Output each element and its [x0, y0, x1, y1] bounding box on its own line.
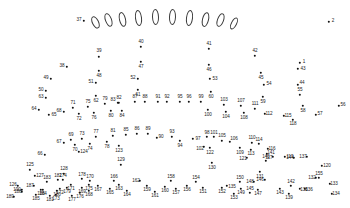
dot-183	[46, 181, 48, 183]
dot-label-155: 155	[315, 172, 322, 177]
dot-label-151: 151	[199, 190, 206, 195]
dot-label-148: 148	[246, 180, 253, 185]
dot-label-100: 100	[204, 113, 211, 118]
dot-label-46: 46	[207, 68, 212, 73]
dot-label-128: 128	[60, 167, 67, 172]
dot-label-76: 76	[92, 116, 97, 121]
dot-145	[249, 192, 251, 194]
dot-105	[221, 140, 223, 142]
dot-label-93: 93	[170, 130, 175, 135]
dot-label-106: 106	[230, 137, 237, 142]
dot-label-73: 73	[80, 132, 85, 137]
dot-63	[45, 97, 47, 99]
dot-75	[87, 106, 89, 108]
dot-49	[50, 78, 52, 80]
oval-3-shape	[117, 11, 127, 27]
dot-label-122: 122	[206, 151, 213, 156]
dot-label-67: 67	[57, 140, 62, 145]
dot-label-130: 130	[208, 166, 215, 171]
dot-label-66: 66	[38, 152, 43, 157]
oval-5-shape	[151, 9, 159, 25]
dot-65	[48, 114, 50, 116]
dot-label-69: 69	[69, 133, 74, 138]
dot-label-152: 152	[218, 190, 225, 195]
dot-label-2: 2	[332, 18, 334, 23]
dot-label-55: 55	[298, 88, 303, 93]
dot-label-141: 141	[267, 151, 274, 156]
dot-label-65: 65	[52, 113, 57, 118]
dot-label-143: 143	[276, 191, 283, 196]
dot-label-142: 142	[287, 180, 294, 185]
dot-label-41: 41	[207, 42, 212, 47]
dot-label-81: 81	[111, 129, 116, 134]
dot-label-139: 139	[285, 196, 292, 201]
dot-label-167: 167	[94, 188, 101, 193]
dot-37	[83, 20, 85, 22]
dot-label-68: 68	[57, 109, 62, 114]
dot-label-49: 49	[44, 76, 49, 81]
dot-label-162: 162	[132, 179, 139, 184]
dot-label-88: 88	[143, 95, 148, 100]
dot-42	[254, 55, 256, 57]
dot-label-38: 38	[60, 64, 65, 69]
dot-label-52: 52	[131, 76, 136, 81]
dot-label-114: 114	[255, 138, 262, 143]
oval-10-shape	[228, 16, 239, 30]
dot-39	[98, 56, 100, 58]
dot-52	[137, 78, 139, 80]
dot-label-190: 190	[13, 188, 20, 193]
dot-label-70: 70	[73, 148, 78, 153]
dot-label-110: 110	[248, 136, 255, 141]
dot-label-64: 64	[32, 107, 37, 112]
dot-182	[57, 179, 59, 181]
dot-96	[188, 101, 190, 103]
dot-label-79: 79	[103, 97, 108, 102]
dot-label-157: 157	[172, 191, 179, 196]
dot-125	[29, 169, 31, 171]
oval-9-shape	[215, 12, 226, 27]
oval-8-shape	[200, 11, 210, 27]
dot-label-45: 45	[259, 76, 264, 81]
dot-label-147: 147	[254, 192, 261, 197]
dot-38	[66, 66, 68, 68]
dot-92	[166, 101, 168, 103]
dot-53	[209, 78, 211, 80]
dot-label-102: 102	[196, 147, 203, 152]
dot-label-145: 145	[246, 187, 253, 192]
dot-label-137: 137	[299, 155, 306, 160]
dot-66	[44, 154, 46, 156]
dot-label-86: 86	[135, 127, 140, 132]
dot-label-90: 90	[159, 135, 164, 140]
dot-41	[208, 48, 210, 50]
dot-99	[200, 101, 202, 103]
dot-label-159: 159	[143, 188, 150, 193]
oval-4-shape	[134, 10, 143, 27]
dot-label-101: 101	[210, 131, 217, 136]
dot-label-189: 189	[6, 195, 13, 200]
dot-label-105: 105	[218, 134, 225, 139]
dot-label-57: 57	[318, 112, 323, 117]
dot-label-97: 97	[196, 137, 201, 142]
dot-110	[251, 142, 253, 144]
dot-146	[264, 179, 266, 181]
dot-40	[140, 46, 142, 48]
dot-2	[328, 21, 330, 23]
dot-label-163: 163	[115, 187, 122, 192]
dot-67	[63, 142, 65, 144]
dot-86	[136, 133, 138, 135]
dot-label-164: 164	[123, 193, 130, 198]
dot-label-44: 44	[300, 81, 305, 86]
dot-label-154: 154	[192, 176, 199, 181]
dot-label-166: 166	[110, 175, 117, 180]
dot-label-176: 176	[76, 195, 83, 200]
dot-51	[95, 82, 97, 84]
dot-label-47: 47	[139, 65, 144, 70]
dot-label-80: 80	[109, 114, 114, 119]
dot-label-50: 50	[39, 88, 44, 93]
dot-label-107: 107	[237, 99, 244, 104]
dot-154	[195, 181, 197, 183]
dot-label-96: 96	[187, 95, 192, 100]
dot-label-149: 149	[237, 191, 244, 196]
dot-label-158: 158	[167, 175, 174, 180]
dot-label-183: 183	[43, 176, 50, 181]
